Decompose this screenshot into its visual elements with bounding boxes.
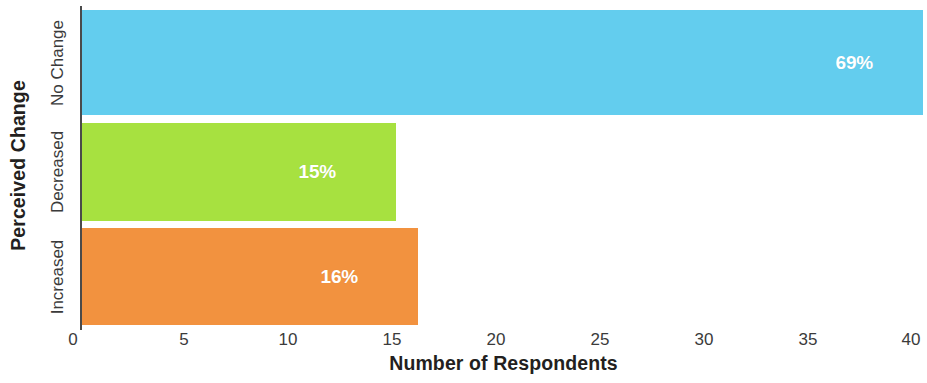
bar-chart: Perceived Change No Change Decreased Inc… (0, 0, 927, 383)
x-tick-30: 30 (695, 330, 714, 350)
x-tick-15: 15 (383, 330, 402, 350)
bar-value-label-decreased: 15% (299, 161, 336, 183)
plot-area: 69% 15% 16% (80, 0, 927, 330)
bar-value-label-no-change: 69% (836, 52, 873, 74)
y-axis-label-text: No Change (48, 19, 68, 105)
x-axis-title-text: Number of Respondents (389, 352, 618, 374)
y-axis-label-text: Increased (48, 239, 68, 314)
x-tick-5: 5 (179, 330, 188, 350)
y-axis-title: Perceived Change (0, 0, 36, 330)
x-tick-40: 40 (902, 330, 921, 350)
x-tick-0: 0 (68, 330, 77, 350)
y-axis-label-no-change: No Change (38, 10, 78, 115)
y-axis-label-text: Decreased (48, 131, 68, 213)
x-tick-20: 20 (487, 330, 506, 350)
y-axis-label-decreased: Decreased (38, 123, 78, 221)
x-tick-25: 25 (591, 330, 610, 350)
x-axis-title: Number of Respondents (80, 352, 927, 375)
y-axis-category-labels: No Change Decreased Increased (38, 0, 78, 330)
y-axis-title-text: Perceived Change (7, 80, 30, 251)
bar-increased[interactable]: 16% (82, 228, 418, 325)
y-axis-label-increased: Increased (38, 228, 78, 325)
bar-no-change[interactable]: 69% (82, 10, 923, 115)
bar-decreased[interactable]: 15% (82, 123, 396, 221)
x-tick-35: 35 (799, 330, 818, 350)
x-tick-10: 10 (279, 330, 298, 350)
bar-value-label-increased: 16% (321, 266, 358, 288)
